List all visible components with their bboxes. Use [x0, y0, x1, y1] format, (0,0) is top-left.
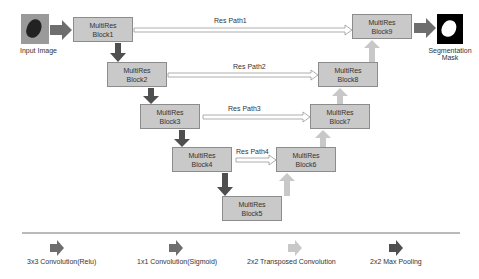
res-path-arrows: [134, 25, 352, 165]
multires-block9: MultiResBlock9: [352, 14, 412, 39]
res-path4-label: Res Path4: [236, 148, 269, 155]
multires-block6: MultiResBlock6: [276, 147, 336, 172]
up-arrow-7-8: [332, 88, 348, 104]
multires-block3: MultiResBlock3: [140, 104, 200, 129]
mask-shape: [440, 18, 459, 39]
legend-label-conv1x1: 1x1 Convolution(Sigmoid): [137, 258, 217, 265]
pool-arrow-2-3: [143, 88, 159, 104]
legend-arrow-transposed: [288, 240, 302, 256]
multires-block7: MultiResBlock7: [310, 104, 370, 129]
multires-block8: MultiResBlock8: [318, 62, 378, 87]
conv-arrow-input: [50, 20, 72, 40]
pool-arrow-1-2: [110, 43, 126, 62]
legend-arrow-conv1x1: [169, 240, 183, 256]
lesion-shape: [24, 17, 44, 40]
pool-arrow-4-5: [217, 173, 233, 196]
res-path1-label: Res Path1: [214, 17, 247, 24]
res-path2-label: Res Path2: [233, 63, 266, 70]
legend-arrow-conv3x3: [50, 240, 64, 256]
conv-arrow-output: [414, 18, 436, 38]
up-arrow-8-9: [364, 40, 380, 62]
multires-block4: MultiResBlock4: [172, 147, 232, 172]
multires-block2: MultiResBlock2: [107, 62, 167, 87]
legend-arrow-maxpool: [389, 240, 403, 256]
legend-label-maxpool: 2x2 Max Pooling: [370, 258, 422, 265]
legend-label-transposed: 2x2 Transposed Convolution: [247, 258, 336, 265]
multires-block5: MultiResBlock5: [222, 196, 282, 221]
up-arrow-5-6: [279, 173, 295, 196]
res-path3-label: Res Path3: [228, 105, 261, 112]
pool-arrow-3-4: [174, 130, 190, 147]
legend-label-conv3x3: 3x3 Convolution(Relu): [27, 258, 96, 265]
input-image: [21, 14, 49, 44]
up-arrow-6-7: [315, 130, 331, 147]
input-image-label: Input Image: [20, 47, 57, 54]
segmentation-mask-label: Segmentation Mask: [428, 47, 472, 61]
multires-block1: MultiResBlock1: [73, 17, 133, 42]
diagram-arrows: [0, 0, 479, 279]
segmentation-mask: [437, 14, 463, 44]
